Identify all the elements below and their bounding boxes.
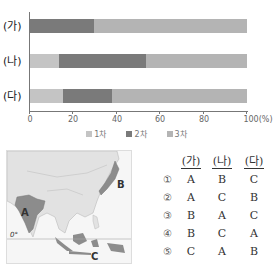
bar-segment	[146, 54, 247, 68]
row-label-da: (다)	[3, 87, 22, 103]
option-number: ②	[158, 192, 176, 203]
x-tick-label: 80	[199, 115, 209, 124]
option-ga: A	[176, 173, 206, 186]
option-number: ①	[158, 174, 176, 185]
x-tick	[159, 111, 160, 114]
option-na: C	[206, 191, 238, 204]
equator-label: 0°	[10, 231, 18, 239]
options-header: (가) (나) (다)	[158, 150, 270, 170]
legend-swatch	[126, 131, 132, 137]
map-label-a: A	[21, 207, 29, 218]
x-tick	[116, 111, 117, 114]
bar-da	[30, 89, 247, 103]
option-number: ⑤	[158, 246, 176, 257]
bar-segment	[63, 89, 113, 103]
option-ga: B	[176, 227, 206, 240]
bar-segment	[30, 19, 94, 33]
chart-legend: 1차 2차 3차	[0, 128, 273, 139]
option-number: ④	[158, 228, 176, 239]
option-row-3[interactable]: ③ B A C	[158, 206, 270, 224]
option-ga: C	[176, 245, 206, 258]
bar-na	[30, 54, 247, 68]
legend-swatch	[86, 131, 92, 137]
bar-segment	[94, 19, 247, 33]
option-da: B	[238, 191, 270, 204]
option-da: B	[238, 245, 270, 258]
legend-label: 2차	[134, 128, 146, 139]
option-row-1[interactable]: ① A B C	[158, 170, 270, 188]
x-tick-label: 100(%)	[243, 115, 272, 124]
map-label-b: B	[117, 179, 125, 190]
header-ga: (가)	[181, 155, 202, 169]
option-ga: B	[176, 209, 206, 222]
legend-item-1: 1차	[86, 128, 106, 139]
legend-item-2: 2차	[126, 128, 146, 139]
option-row-5[interactable]: ⑤ C A B	[158, 242, 270, 260]
x-tick	[72, 111, 73, 114]
header-da: (다)	[244, 155, 265, 169]
asia-map: A B C 0°	[6, 150, 132, 264]
map-label-c: C	[91, 251, 98, 262]
option-da: C	[238, 209, 270, 222]
x-tick-label: 0	[27, 115, 32, 124]
option-na: C	[206, 227, 238, 240]
option-ga: A	[176, 191, 206, 204]
option-na: A	[206, 245, 238, 258]
x-tick	[29, 111, 30, 114]
bar-segment	[30, 89, 63, 103]
option-na: B	[206, 173, 238, 186]
row-label-ga: (가)	[3, 17, 22, 33]
option-na: A	[206, 209, 238, 222]
x-tick	[246, 111, 247, 114]
x-tick-label: 60	[155, 115, 165, 124]
row-label-na: (나)	[3, 52, 22, 68]
bar-segment	[112, 89, 247, 103]
option-da: A	[238, 227, 270, 240]
x-axis	[29, 111, 248, 112]
x-tick-label: 20	[68, 115, 78, 124]
legend-item-3: 3차	[167, 128, 187, 139]
bar-segment	[59, 54, 146, 68]
option-row-4[interactable]: ④ B C A	[158, 224, 270, 242]
option-da: C	[238, 173, 270, 186]
legend-label: 3차	[175, 128, 187, 139]
x-tick	[203, 111, 204, 114]
bar-ga	[30, 19, 247, 33]
stacked-bar-chart: (가) (나) (다) 0 20 40 60 80 100(%) 1차 2차 3…	[0, 0, 273, 140]
legend-label: 1차	[94, 128, 106, 139]
answer-options: (가) (나) (다) ① A B C ② A C B ③ B A C ④ B …	[158, 150, 270, 260]
option-number: ③	[158, 210, 176, 221]
option-row-2[interactable]: ② A C B	[158, 188, 270, 206]
bar-segment	[30, 54, 59, 68]
legend-swatch	[167, 131, 173, 137]
x-tick-label: 40	[112, 115, 122, 124]
header-na: (나)	[212, 155, 233, 169]
